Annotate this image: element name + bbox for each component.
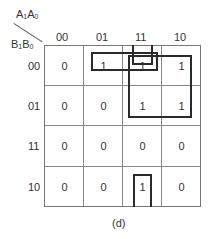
map-cell: 0 [162, 126, 201, 166]
column-variable-label: A1A0 [16, 9, 39, 20]
map-cell: 0 [162, 167, 201, 207]
row-header-10: 10 [28, 182, 40, 193]
map-cell: 0 [84, 86, 123, 126]
column-header-11: 11 [135, 32, 146, 43]
group-loop-single-bottom-wrap [133, 174, 152, 207]
figure-caption: (d) [112, 218, 125, 229]
column-header-00: 00 [56, 32, 68, 43]
row-header-11: 11 [28, 141, 39, 152]
map-cell: 0 [45, 126, 84, 166]
map-cell: 0 [45, 46, 84, 86]
map-cell: 0 [84, 167, 123, 207]
map-cell: 0 [45, 167, 84, 207]
row-variable-label: B1B0 [11, 39, 34, 50]
map-cell: 0 [45, 86, 84, 126]
row-header-01: 01 [28, 101, 40, 112]
group-loop-quad [128, 55, 192, 118]
map-cell: 0 [123, 126, 162, 166]
column-header-01: 01 [96, 32, 108, 43]
row-header-00: 00 [28, 61, 40, 72]
column-header-10: 10 [174, 32, 186, 43]
map-cell: 0 [84, 126, 123, 166]
